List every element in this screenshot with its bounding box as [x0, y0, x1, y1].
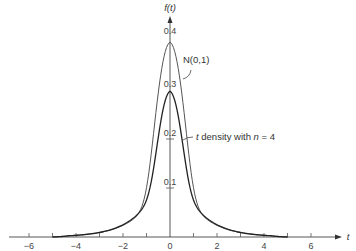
x-tick-label: −6 [24, 241, 34, 251]
x-axis-label: t [347, 231, 350, 242]
x-tick-label: 2 [214, 241, 219, 251]
x-axis-arrow-icon [335, 235, 342, 240]
t-pointer [183, 137, 193, 140]
y-tick-label: 0.1 [164, 177, 177, 187]
x-tick-label: −2 [118, 241, 128, 251]
x-tick-label: 0 [167, 241, 172, 251]
y-axis-arrow-icon [168, 16, 173, 23]
x-tick-label: 6 [308, 241, 313, 251]
y-tick-label: 0.4 [164, 26, 177, 36]
x-tick-label: −4 [71, 241, 81, 251]
normal-annotation: N(0,1) [183, 54, 209, 65]
t-annotation: t density with n = 4 [196, 131, 275, 142]
normal-pointer [183, 70, 191, 79]
chart: −6−4−20246 0.10.20.30.4 f(t) t N(0,1) t … [0, 0, 356, 251]
x-tick-label: 4 [261, 241, 266, 251]
y-tick-label: 0.3 [164, 79, 177, 89]
y-axis-label: f(t) [164, 2, 176, 13]
y-tick-label: 0.2 [164, 128, 177, 138]
